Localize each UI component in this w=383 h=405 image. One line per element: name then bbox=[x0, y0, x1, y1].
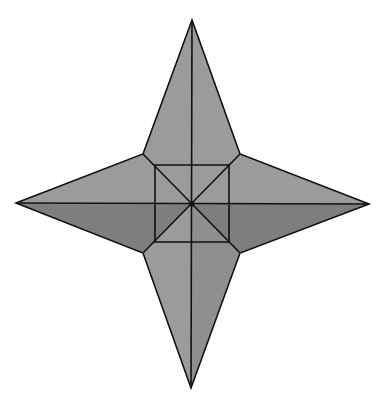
four-pointed-star-diagram bbox=[0, 0, 383, 405]
diagram-canvas: Four-pointed star with inscribed central… bbox=[0, 0, 383, 405]
center-point bbox=[190, 202, 195, 207]
left-arm-upper-face bbox=[16, 154, 155, 204]
bottom-arm-left-face bbox=[143, 242, 192, 388]
